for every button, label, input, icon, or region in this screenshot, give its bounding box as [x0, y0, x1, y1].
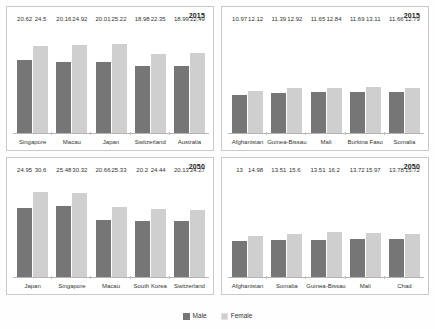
bar-rect-female[interactable]: 24.27 [190, 210, 205, 278]
x-axis-category-label: Japan [91, 139, 130, 145]
bar-female[interactable]: 24.5 [33, 23, 48, 134]
bar-group: 13.7215.97 [346, 174, 385, 278]
bar-value-label: 11.39 [272, 16, 287, 22]
bar-rect-male[interactable]: 11.39 [271, 93, 286, 134]
bar-rect-female[interactable]: 14.98 [248, 236, 263, 278]
bar-rect-female[interactable]: 25.22 [112, 44, 127, 134]
bar-female[interactable]: 12.92 [287, 23, 302, 134]
bar-male[interactable]: 20.13 [174, 174, 189, 278]
bar-value-label: 20.01 [95, 16, 110, 22]
bar-rect-male[interactable]: 20.62 [17, 60, 32, 134]
bar-rect-female[interactable]: 12.92 [287, 88, 302, 134]
bar-male[interactable]: 20.66 [96, 174, 111, 278]
bar-rect-male[interactable]: 11.66 [389, 92, 404, 134]
bar-rect-female[interactable]: 15.72 [405, 234, 420, 278]
x-axis-category-label: Switzerland [131, 139, 170, 145]
bar-male[interactable]: 10.97 [232, 23, 247, 134]
legend-item-female[interactable]: Female [221, 313, 253, 320]
bar-rect-male[interactable]: 18.99 [174, 66, 189, 134]
bar-male[interactable]: 20.01 [96, 23, 111, 134]
bar-rect-female[interactable]: 12.12 [248, 91, 263, 134]
bar-rect-male[interactable]: 10.97 [232, 95, 247, 134]
bar-female[interactable]: 24.27 [190, 174, 205, 278]
bar-rect-male[interactable]: 11.69 [350, 92, 365, 134]
bar-rect-female[interactable]: 30.32 [72, 193, 87, 278]
bar-female[interactable]: 30.6 [33, 174, 48, 278]
bar-value-label: 15.72 [405, 167, 420, 173]
bar-female[interactable]: 15.97 [366, 174, 381, 278]
plot-area: 1314.9813.5115.613.5116.213.7215.9713.78… [228, 174, 424, 278]
bar-male[interactable]: 13.51 [311, 174, 326, 278]
bar-male[interactable]: 11.39 [271, 23, 286, 134]
bar-male[interactable]: 20.62 [17, 23, 32, 134]
bar-value-label: 11.66 [389, 16, 404, 22]
bar-male[interactable]: 11.65 [311, 23, 326, 134]
bar-male[interactable]: 25.48 [56, 174, 71, 278]
bar-rect-female[interactable]: 22.49 [190, 53, 205, 134]
bar-rect-female[interactable]: 22.35 [151, 54, 166, 134]
bar-female[interactable]: 12.79 [405, 23, 420, 134]
bar-value-label: 13.51 [271, 167, 286, 173]
bar-rect-female[interactable]: 12.79 [405, 88, 420, 134]
bar-value-label: 13 [236, 167, 243, 173]
bar-rect-male[interactable]: 13.51 [271, 240, 286, 278]
bar-male[interactable]: 24.95 [17, 174, 32, 278]
bar-male[interactable]: 20.2 [135, 174, 150, 278]
bar-rect-female[interactable]: 15.6 [287, 234, 302, 278]
bar-rect-female[interactable]: 13.11 [366, 87, 381, 134]
bar-rect-male[interactable]: 25.48 [56, 206, 71, 278]
bar-group: 11.6913.11 [346, 23, 385, 134]
bar-group: 20.1324.27 [170, 174, 209, 278]
bar-value-label: 11.69 [350, 16, 365, 22]
bar-female[interactable]: 16.2 [327, 174, 342, 278]
bar-rect-male[interactable]: 20.13 [174, 221, 189, 278]
bar-rect-male[interactable]: 11.65 [311, 92, 326, 134]
bar-female[interactable]: 25.22 [112, 23, 127, 134]
bar-male[interactable]: 13.78 [389, 174, 404, 278]
bar-rect-female[interactable]: 12.84 [327, 88, 342, 134]
bar-female[interactable]: 24.92 [72, 23, 87, 134]
bar-female[interactable]: 15.6 [287, 174, 302, 278]
bar-rect-male[interactable]: 20.66 [96, 220, 111, 278]
bar-female[interactable]: 13.11 [366, 23, 381, 134]
bar-female[interactable]: 15.72 [405, 174, 420, 278]
bar-rect-male[interactable]: 13.78 [389, 239, 404, 278]
bar-rect-male[interactable]: 20.01 [96, 62, 111, 134]
bar-female[interactable]: 22.35 [151, 23, 166, 134]
bar-rect-male[interactable]: 20.2 [135, 221, 150, 278]
bar-female[interactable]: 12.12 [248, 23, 263, 134]
bar-rect-female[interactable]: 25.33 [112, 207, 127, 278]
legend-item-male[interactable]: Male [183, 313, 207, 320]
bar-female[interactable]: 22.49 [190, 23, 205, 134]
bar-female[interactable]: 12.84 [327, 23, 342, 134]
chart-panel-top-left: 201520.6224.520.1624.9220.0125.2218.9822… [6, 6, 214, 151]
x-axis-category-label: Afghanistan [228, 139, 267, 145]
bar-rect-male[interactable]: 18.98 [135, 66, 150, 134]
bar-rect-male[interactable]: 13 [232, 241, 247, 278]
bar-rect-female[interactable]: 15.97 [366, 233, 381, 278]
bar-value-label: 13.78 [389, 167, 404, 173]
bar-female[interactable]: 25.33 [112, 174, 127, 278]
bar-rect-female[interactable]: 30.6 [33, 192, 48, 278]
bar-rect-male[interactable]: 24.95 [17, 208, 32, 278]
bar-male[interactable]: 18.99 [174, 23, 189, 134]
bar-rect-female[interactable]: 24.44 [151, 209, 166, 278]
bar-male[interactable]: 13.51 [271, 174, 286, 278]
bar-female[interactable]: 24.44 [151, 174, 166, 278]
bar-rect-female[interactable]: 16.2 [327, 232, 342, 278]
bar-female[interactable]: 30.32 [72, 174, 87, 278]
bar-male[interactable]: 13.72 [350, 174, 365, 278]
bar-groups: 24.9530.625.4830.3220.6625.3320.224.4420… [13, 174, 209, 278]
bar-female[interactable]: 14.98 [248, 174, 263, 278]
bar-rect-female[interactable]: 24.5 [33, 46, 48, 134]
bar-male[interactable]: 13 [232, 174, 247, 278]
bar-rect-male[interactable]: 13.51 [311, 240, 326, 278]
bar-male[interactable]: 20.16 [56, 23, 71, 134]
bar-rect-female[interactable]: 24.92 [72, 45, 87, 134]
bar-male[interactable]: 11.69 [350, 23, 365, 134]
bar-male[interactable]: 11.66 [389, 23, 404, 134]
bar-rect-male[interactable]: 20.16 [56, 62, 71, 134]
bar-value-label: 24.95 [17, 167, 32, 173]
bar-rect-male[interactable]: 13.72 [350, 239, 365, 278]
bar-male[interactable]: 18.98 [135, 23, 150, 134]
